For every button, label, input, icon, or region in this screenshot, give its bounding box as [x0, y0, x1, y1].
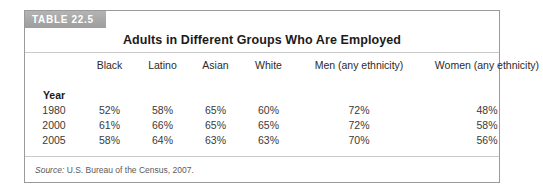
column-header-latino: Latino	[136, 55, 189, 74]
table-row: 2000 61% 66% 65% 65% 72% 58%	[25, 117, 543, 132]
table-header-row: Black Latino Asian White Men (any ethnic…	[25, 55, 543, 74]
table-row: 1980 52% 58% 65% 60% 72% 48%	[25, 102, 543, 117]
cell-black: 58%	[83, 132, 136, 147]
table-title: Adults in Different Groups Who Are Emplo…	[123, 33, 401, 47]
cell-women: 56%	[423, 132, 543, 147]
spacer-cell	[189, 74, 242, 88]
column-header-asian: Asian	[189, 55, 242, 74]
table-title-row: Adults in Different Groups Who Are Emplo…	[25, 28, 499, 52]
cell-year: 1980	[25, 102, 83, 117]
spacer-cell	[423, 74, 543, 88]
column-header-year	[25, 55, 83, 74]
cell-year: 2000	[25, 117, 83, 132]
data-table: Black Latino Asian White Men (any ethnic…	[25, 55, 543, 147]
cell-asian: 65%	[189, 102, 242, 117]
spacer-cell	[25, 74, 83, 88]
row-group-label-row: Year	[25, 88, 543, 102]
column-header-women: Women (any ethnicity)	[423, 55, 543, 74]
cell-women: 48%	[423, 102, 543, 117]
spacer-cell	[189, 88, 242, 102]
source-row: Source: U.S. Bureau of the Census, 2007.	[25, 157, 499, 183]
cell-asian: 65%	[189, 117, 242, 132]
table-row: 2005 58% 64% 63% 63% 70% 56%	[25, 132, 543, 147]
cell-year: 2005	[25, 132, 83, 147]
column-header-black: Black	[83, 55, 136, 74]
cell-men: 70%	[295, 132, 423, 147]
cell-latino: 58%	[136, 102, 189, 117]
cell-women: 58%	[423, 117, 543, 132]
rule-under-title	[25, 52, 499, 53]
column-header-men: Men (any ethnicity)	[295, 55, 423, 74]
spacer-cell	[423, 88, 543, 102]
source-citation: U.S. Bureau of the Census, 2007.	[67, 165, 194, 175]
spacer-cell	[242, 74, 295, 88]
table-number-banner: TABLE 22.5	[25, 11, 106, 28]
spacer-cell	[295, 88, 423, 102]
cell-men: 72%	[295, 102, 423, 117]
spacer-cell	[136, 74, 189, 88]
header-spacer-row	[25, 74, 543, 88]
row-group-label: Year	[43, 89, 65, 101]
spacer-cell	[136, 88, 189, 102]
spacer-cell	[83, 74, 136, 88]
cell-white: 63%	[242, 132, 295, 147]
row-group-label-cell: Year	[25, 88, 83, 102]
column-header-white: White	[242, 55, 295, 74]
cell-white: 60%	[242, 102, 295, 117]
source-label: Source:	[35, 165, 64, 175]
table-figure: TABLE 22.5 Adults in Different Groups Wh…	[24, 10, 500, 183]
cell-asian: 63%	[189, 132, 242, 147]
cell-men: 72%	[295, 117, 423, 132]
table-number-label: TABLE 22.5	[32, 14, 94, 25]
cell-latino: 64%	[136, 132, 189, 147]
cell-black: 52%	[83, 102, 136, 117]
spacer-cell	[83, 88, 136, 102]
cell-white: 65%	[242, 117, 295, 132]
cell-black: 61%	[83, 117, 136, 132]
spacer-cell	[242, 88, 295, 102]
spacer-cell	[295, 74, 423, 88]
cell-latino: 66%	[136, 117, 189, 132]
